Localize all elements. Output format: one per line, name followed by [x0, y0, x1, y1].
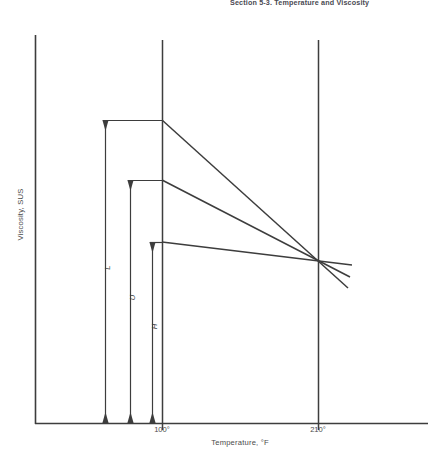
arrowhead-L-bottom — [102, 412, 108, 423]
x-tick-label-210: 210° — [296, 425, 340, 434]
arrowhead-L-top — [102, 120, 108, 131]
arrowhead-H-top — [149, 242, 155, 253]
curve-U — [162, 180, 350, 277]
arrowhead-U-bottom — [127, 412, 133, 423]
viscosity-temperature-chart: Section 5-3. Temperature and Viscosity — [0, 0, 444, 467]
arrowhead-U-top — [127, 180, 133, 191]
chart-canvas — [0, 0, 444, 467]
x-axis-label: Temperature, °F — [180, 438, 300, 447]
arrowhead-H-bottom — [149, 412, 155, 423]
curve-L — [162, 120, 348, 288]
curve-H — [162, 242, 352, 265]
bracket-label-U: U — [128, 289, 137, 307]
x-tick-label-100: 100° — [140, 425, 184, 434]
bracket-label-H: H — [150, 318, 159, 336]
y-axis-label: Viscosity, SUS — [16, 165, 25, 265]
bracket-label-L: L — [103, 259, 112, 277]
